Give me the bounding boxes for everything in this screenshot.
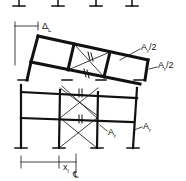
brace-area-lower-right-label: Ar <box>143 122 151 133</box>
centerline-label: ℄ <box>73 171 79 180</box>
brace-area-half-right-label: Ar/2 <box>158 61 174 72</box>
distance-label: xi <box>63 163 69 174</box>
upper-frame <box>27 36 148 84</box>
top-supports <box>13 0 138 6</box>
drift-label: ΔL <box>42 22 51 33</box>
frame-drawing <box>0 0 186 181</box>
brace-area-half-top-label: Ar/2 <box>141 43 157 54</box>
frame-diagram: ΔL Ar/2 Ar/2 Ar Ar xi ℄ <box>0 0 186 181</box>
brace-area-lower-mid-label: Ar <box>108 128 116 139</box>
